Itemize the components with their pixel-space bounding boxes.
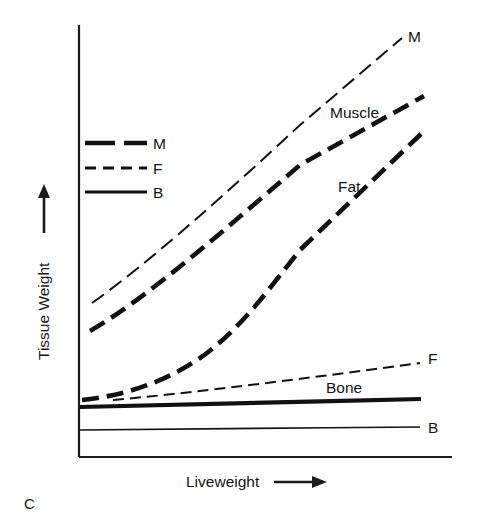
figure-container: M F B M Muscle Fat F Bone B Liveweig [0,0,488,526]
x-axis-label-group: Liveweight [186,473,327,490]
curve-label-f-lower: F [428,350,437,367]
legend-entry-f[interactable]: F [85,160,162,177]
legend-label-m: M [153,135,166,152]
arrow-up-icon [38,184,50,233]
curve-fat [82,134,421,400]
legend-entry-b[interactable]: B [85,184,163,201]
curve-labels-group: M Muscle Fat F Bone B [326,28,438,436]
curve-b-lower [80,427,420,430]
curve-label-m-upper: M [408,28,421,45]
curve-muscle [90,96,424,331]
legend-label-b: B [153,184,163,201]
curves-group [80,38,424,430]
curve-label-muscle: Muscle [330,104,379,121]
panel-label: C [24,495,35,512]
curve-label-b-lower: B [428,419,438,436]
legend: M F B [85,135,166,201]
legend-entry-m[interactable]: M [85,135,166,152]
tissue-growth-chart: M F B M Muscle Fat F Bone B Liveweig [0,0,488,526]
x-axis-label: Liveweight [186,473,260,490]
legend-label-f: F [153,160,162,177]
curve-label-bone: Bone [326,379,362,396]
curve-bone [80,399,421,407]
axes-group [79,25,452,457]
arrow-right-icon [274,476,327,488]
curve-label-fat: Fat [338,178,361,195]
y-axis-label-group: Tissue Weight [35,184,52,360]
curve-m-upper [92,38,402,303]
y-axis-label: Tissue Weight [35,262,52,360]
